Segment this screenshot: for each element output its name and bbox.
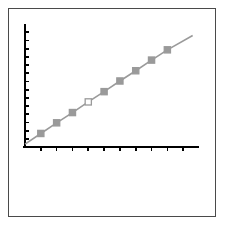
line-chart: [0, 0, 225, 234]
plot-stage: [0, 0, 225, 234]
data-point-marker: [54, 120, 60, 126]
data-point-marker: [38, 130, 44, 136]
data-point-marker: [148, 57, 154, 63]
data-point-marker: [69, 109, 75, 115]
screenshot-root: [0, 0, 225, 234]
data-point-marker: [101, 89, 107, 95]
markers-layer: [38, 47, 171, 137]
data-point-marker: [117, 78, 123, 84]
data-point-marker: [133, 68, 139, 74]
data-point-marker: [164, 47, 170, 53]
data-point-marker: [85, 99, 91, 105]
